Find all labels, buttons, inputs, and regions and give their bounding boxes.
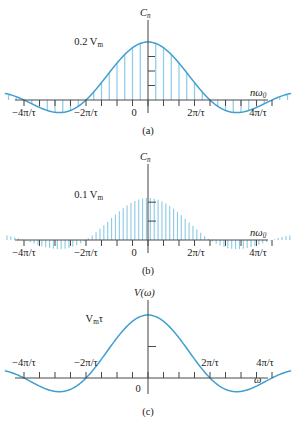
panel-c-y-axis-label: V(ω) [134, 287, 155, 299]
panel-a-xtick-label-2: 0 [131, 107, 136, 118]
panel-c-plot: ω V(ω) Vmτ 0 −4π/τ −2π/τ 2π/τ 4π/τ (c) [0, 282, 295, 423]
panel-c-xtick-label-3: 4π/τ [256, 357, 274, 368]
panel-a-x-ticks [24, 100, 272, 106]
panel-c-xtick-label-0: −4π/τ [12, 357, 36, 368]
panel-a-y-axis-label: Cn [140, 7, 151, 20]
panel-b-xtick-label-1: −2π/τ [74, 247, 98, 258]
panel-a-y-ticks [148, 57, 155, 86]
panel-a-xtick-label-0: −4π/τ [12, 107, 36, 118]
panel-b-xtick-label-4: 4π/τ [249, 247, 267, 258]
panel-a: nω0 Cn 0.2 Vm −4π/τ −2π/τ 0 2π/τ 4π/τ (a… [0, 0, 295, 142]
panel-c-caption: (c) [142, 406, 154, 418]
panel-a-xtick-label-3: 2π/τ [187, 107, 205, 118]
fourier-spectra-figure: nω0 Cn 0.2 Vm −4π/τ −2π/τ 0 2π/τ 4π/τ (a… [0, 0, 295, 423]
panel-c-xtick-label-2: 2π/τ [201, 357, 219, 368]
panel-c: ω V(ω) Vmτ 0 −4π/τ −2π/τ 2π/τ 4π/τ (c) [0, 282, 295, 423]
panel-b-xtick-label-3: 2π/τ [187, 247, 205, 258]
panel-b-xtick-label-0: −4π/τ [12, 247, 36, 258]
panel-b-caption: (b) [142, 265, 155, 277]
panel-c-x-axis-label: ω [254, 374, 261, 385]
panel-b-x-axis-label: nω0 [250, 227, 267, 240]
panel-b-plot: nω0 Cn 0.1 Vm −4π/τ −2π/τ 0 2π/τ 4π/τ (b… [0, 142, 295, 282]
panel-c-x-ticks [24, 372, 272, 378]
panel-b: nω0 Cn 0.1 Vm −4π/τ −2π/τ 0 2π/τ 4π/τ (b… [0, 142, 295, 282]
panel-a-xtick-label-1: −2π/τ [74, 107, 98, 118]
panel-c-peak-label: Vmτ [86, 313, 103, 326]
panel-b-y-axis-label: Cn [140, 151, 151, 164]
panel-a-plot: nω0 Cn 0.2 Vm −4π/τ −2π/τ 0 2π/τ 4π/τ (a… [0, 0, 295, 142]
panel-a-xtick-label-4: 4π/τ [249, 107, 267, 118]
panel-c-origin-label: 0 [135, 383, 140, 394]
panel-a-peak-label: 0.2 Vm [74, 36, 103, 49]
panel-b-y-ticks [148, 202, 156, 221]
panel-b-xtick-label-2: 0 [131, 247, 136, 258]
panel-c-xtick-label-1: −2π/τ [74, 357, 98, 368]
panel-a-caption: (a) [142, 125, 154, 137]
panel-a-x-axis-label: nω0 [250, 87, 267, 100]
panel-b-peak-label: 0.1 Vm [74, 189, 103, 202]
